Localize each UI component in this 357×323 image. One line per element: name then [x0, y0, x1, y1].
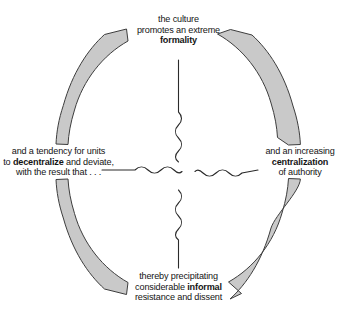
node-top-line3: formality [113, 35, 244, 46]
node-left-line3: with the result that . . . [0, 167, 117, 178]
arc-top-right [218, 30, 301, 146]
node-left-line2-suffix: and deviate, [64, 157, 114, 167]
node-right-line1: and an increasing [243, 146, 357, 157]
arc-left-top [56, 29, 128, 145]
node-bottom-line2-emphasis: informal [187, 282, 222, 292]
node-label-right: and an increasing centralization of auth… [243, 146, 357, 178]
node-top-line2: promotes an extreme [113, 25, 244, 36]
node-label-bottom: thereby precipitating considerable infor… [113, 271, 244, 303]
node-right-line3: of authority [243, 167, 357, 178]
cycle-diagram: the culture promotes an extreme formalit… [0, 0, 357, 323]
connector-bottom [176, 190, 182, 268]
node-left-line1: and a tendency for units [0, 146, 117, 157]
node-right-line2: centralization [243, 157, 357, 168]
node-left-line2: to decentralize and deviate, [0, 157, 117, 168]
node-bottom-line2: considerable informal [113, 282, 244, 293]
node-left-line2-prefix: to [3, 157, 13, 167]
node-bottom-line1: thereby precipitating [113, 271, 244, 282]
node-left-line2-emphasis: decentralize [13, 157, 64, 167]
node-bottom-line2-plain: considerable [135, 282, 187, 292]
connector-group [102, 60, 258, 268]
connector-top [176, 60, 182, 162]
node-bottom-line3: resistance and dissent [113, 292, 244, 303]
node-label-top: the culture promotes an extreme formalit… [113, 14, 244, 46]
node-top-line1: the culture [113, 14, 244, 25]
node-label-left: and a tendency for units to decentralize… [0, 146, 117, 178]
